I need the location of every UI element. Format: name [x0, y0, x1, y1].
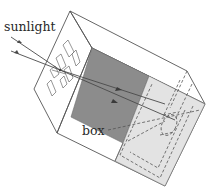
- diagram-canvas: sunlight box: [0, 0, 213, 195]
- sunlight-arrows: [11, 37, 60, 70]
- pinhole-box-diagram: sunlight box: [0, 0, 213, 195]
- box-label: box: [82, 123, 105, 138]
- pinhole-face-rectangles: [47, 40, 80, 96]
- sunlight-label: sunlight: [4, 19, 56, 34]
